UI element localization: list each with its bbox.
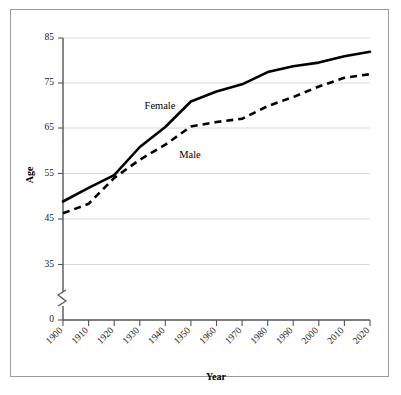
- series-label-female: Female: [145, 100, 176, 111]
- y-tick-label-65: 65: [45, 122, 55, 132]
- x-tick-label-1980: 1980: [249, 325, 270, 346]
- x-tick-label-1910: 1910: [70, 325, 91, 346]
- series-label-male: Male: [179, 149, 201, 160]
- y-tick-label-55: 55: [45, 168, 55, 178]
- x-axis: [63, 320, 370, 326]
- y-tick-label-0: 0: [49, 314, 54, 324]
- x-tick-labels: 1900 1910 1920 1930 1940 1950 1960 1970 …: [44, 325, 372, 346]
- y-tick-label-75: 75: [45, 77, 55, 87]
- line-chart: 85 75 65 55 45 35 0 1900 1910: [0, 0, 401, 395]
- y-tick-labels: 85 75 65 55 45 35 0: [45, 32, 55, 324]
- x-tick-label-2000: 2000: [300, 325, 321, 346]
- y-axis-title: Age: [24, 166, 35, 183]
- figure-container: 85 75 65 55 45 35 0 1900 1910: [0, 0, 401, 395]
- x-tick-label-2020: 2020: [351, 325, 372, 346]
- x-tick-label-1930: 1930: [121, 325, 142, 346]
- x-tick-label-1990: 1990: [274, 325, 295, 346]
- y-axis: [58, 38, 66, 320]
- y-tick-label-85: 85: [45, 32, 55, 42]
- x-tick-label-1940: 1940: [146, 325, 167, 346]
- y-tick-label-45: 45: [45, 213, 55, 223]
- x-tick-label-1960: 1960: [197, 325, 218, 346]
- series-line-male: [63, 74, 370, 213]
- x-tick-label-1970: 1970: [223, 325, 244, 346]
- series-line-female: [63, 52, 370, 202]
- x-axis-title: Year: [206, 371, 227, 382]
- x-tick-label-2010: 2010: [325, 325, 346, 346]
- series-lines: [63, 52, 370, 214]
- x-tick-label-1920: 1920: [95, 325, 116, 346]
- x-tick-label-1950: 1950: [172, 325, 193, 346]
- x-tick-label-1900: 1900: [44, 325, 65, 346]
- y-tick-label-35: 35: [45, 259, 55, 269]
- gridlines: [63, 38, 370, 265]
- axis-break-zigzag: [58, 290, 66, 306]
